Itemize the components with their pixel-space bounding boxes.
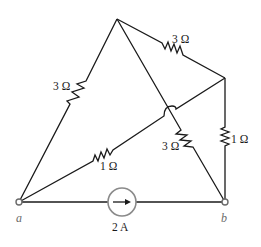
current-source [108,188,136,216]
current-source-label: 2 A [112,222,128,234]
resistor-a-right-label: 1 Ω [100,161,117,173]
resistor-top-right [117,19,225,78]
terminal-a [16,199,22,205]
resistor-top-b [117,19,225,202]
resistor-a-top-label: 3 Ω [53,81,70,93]
resistor-top-right-label: 3 Ω [172,34,189,46]
terminal-b [222,199,228,205]
resistor-right-b-label: 1 Ω [231,134,248,146]
node-b-label: b [221,212,227,224]
resistor-a-right [19,78,225,202]
resistor-top-b-label: 3 Ω [162,141,179,153]
node-a-label: a [16,212,22,224]
resistor-right-b [221,78,229,202]
circuit-schematic [0,0,261,247]
circuit-diagram: 3 Ω 3 Ω 3 Ω 1 Ω 1 Ω 2 A a b [0,0,261,247]
